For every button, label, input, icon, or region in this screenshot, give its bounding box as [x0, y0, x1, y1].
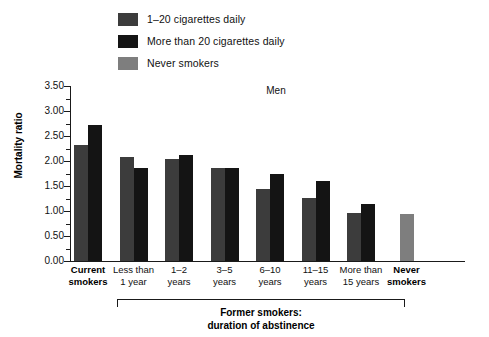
- bracket-caption-line: Former smokers:: [117, 307, 405, 320]
- legend-item-label: Never smokers: [147, 57, 219, 70]
- bracket-caption: Former smokers:duration of abstinence: [117, 307, 405, 332]
- bar: [165, 159, 179, 261]
- legend-item-label: More than 20 cigarettes daily: [147, 35, 285, 48]
- y-tick-label: 3.00: [30, 106, 64, 116]
- y-tick-label: 1.50: [30, 181, 64, 191]
- bar: [302, 198, 316, 261]
- bar: [316, 181, 330, 261]
- legend-swatch-icon: [118, 35, 138, 48]
- bar: [179, 155, 193, 261]
- legend-swatch-icon: [118, 57, 138, 70]
- x-tick-label-line: smokers: [375, 276, 439, 288]
- x-axis-category-labels: CurrentsmokersLess than1 year1–2years3–5…: [70, 264, 468, 300]
- bar: [225, 168, 239, 261]
- y-tick-label: 3.50: [30, 81, 64, 91]
- chart-legend: 1–20 cigarettes daily More than 20 cigar…: [118, 8, 285, 74]
- y-tick-label: 2.00: [30, 156, 64, 166]
- y-tick-label: 0.50: [30, 231, 64, 241]
- bracket-caption-line: duration of abstinence: [117, 320, 405, 333]
- bar: [88, 125, 102, 261]
- bar: [134, 168, 148, 261]
- y-axis-label: Mortality ratio: [13, 91, 24, 201]
- bar: [74, 145, 88, 261]
- x-tick-label-line: Never: [375, 264, 439, 276]
- legend-swatch-icon: [118, 13, 138, 26]
- bar: [400, 214, 414, 262]
- x-tick-label: Neversmokers: [375, 264, 439, 288]
- legend-item: Never smokers: [118, 52, 285, 74]
- bracket-tick-right: [404, 299, 405, 307]
- bar: [361, 204, 375, 261]
- bar: [120, 157, 134, 261]
- bar: [256, 189, 270, 261]
- legend-item: 1–20 cigarettes daily: [118, 8, 285, 30]
- bracket-tick-left: [117, 299, 118, 307]
- former-smokers-bracket: [117, 299, 405, 307]
- bar: [347, 213, 361, 261]
- x-axis-line: [70, 261, 465, 262]
- bar: [211, 168, 225, 261]
- bracket-line: [117, 299, 405, 300]
- bar: [270, 174, 284, 261]
- mortality-ratio-bar-chart: 1–20 cigarettes daily More than 20 cigar…: [0, 0, 489, 337]
- legend-item-label: 1–20 cigarettes daily: [147, 13, 245, 26]
- y-tick-label: 1.00: [30, 206, 64, 216]
- legend-item: More than 20 cigarettes daily: [118, 30, 285, 52]
- y-tick-label: 2.50: [30, 131, 64, 141]
- bar-series-container: [70, 86, 465, 261]
